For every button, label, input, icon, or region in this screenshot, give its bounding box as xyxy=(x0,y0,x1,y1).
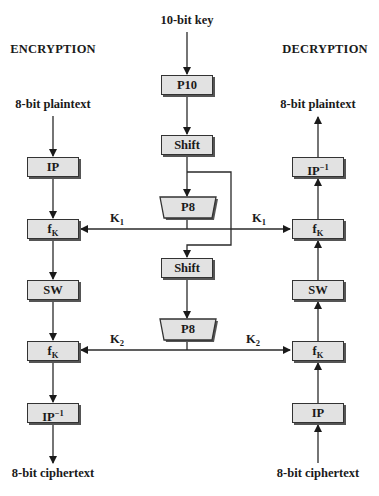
encryption-input-label: 8-bit plaintext xyxy=(15,97,90,112)
dec-sw-box: SW xyxy=(292,280,344,300)
encryption-output-label: 8-bit ciphertext xyxy=(12,466,94,481)
key-shift1-box: Shift xyxy=(161,135,213,155)
decryption-title: DECRYPTION xyxy=(282,42,368,57)
k1-left-label: K1 xyxy=(110,211,124,227)
key-input-label: 10-bit key xyxy=(160,13,213,28)
dec-ip-box: IP xyxy=(292,403,344,423)
encryption-title: ENCRYPTION xyxy=(10,42,96,57)
enc-fk1-box: fK xyxy=(27,219,79,239)
k2-right-label: K2 xyxy=(246,332,260,348)
key-shift2-box: Shift xyxy=(161,258,213,278)
key-p8-1-box: P8 xyxy=(161,197,215,218)
enc-fk2-box: fK xyxy=(27,341,79,361)
dec-fk1-box: fK xyxy=(292,219,344,239)
enc-sw-box: SW xyxy=(27,280,79,300)
dec-ip-inverse-box: IP−1 xyxy=(292,157,344,177)
dec-fk2-box: fK xyxy=(292,341,344,361)
k2-left-label: K2 xyxy=(110,332,124,348)
decryption-input-label: 8-bit ciphertext xyxy=(277,466,359,481)
k1-right-label: K1 xyxy=(252,211,266,227)
decryption-output-label: 8-bit plaintext xyxy=(280,97,355,112)
enc-ip-box: IP xyxy=(27,157,79,177)
key-p10-box: P10 xyxy=(161,75,213,95)
enc-ip-inverse-box: IP−1 xyxy=(27,403,79,423)
key-p8-2-box: P8 xyxy=(161,319,215,340)
